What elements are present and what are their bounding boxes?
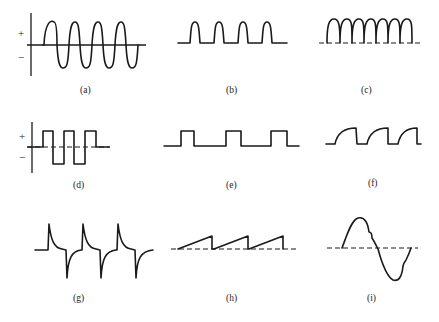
panel-label-i: (i): [367, 293, 376, 304]
panel-g: (g): [35, 224, 153, 304]
panel-label-a: (a): [80, 85, 91, 96]
distorted-sine-wave: [342, 218, 411, 281]
panel-f: (f): [326, 128, 421, 189]
minus-sign: −: [19, 151, 25, 163]
panel-d: + − (d): [19, 122, 110, 191]
panel-label-c: (c): [361, 85, 372, 96]
panel-h: (h): [171, 236, 297, 304]
plus-sign: +: [19, 130, 25, 142]
panel-a: + − (a): [18, 13, 146, 96]
rectified-arches: [327, 19, 412, 43]
panel-label-g: (g): [73, 293, 84, 304]
panel-label-b: (b): [226, 85, 237, 96]
rectangular-pulse-train: [164, 131, 299, 146]
panel-e: (e): [164, 131, 299, 191]
panel-b: (b): [178, 22, 287, 96]
panel-label-e: (e): [226, 180, 237, 191]
rounded-pulse-wave: [178, 22, 287, 43]
sawtooth-wave: [178, 236, 283, 249]
panel-label-f: (f): [368, 178, 378, 189]
panel-label-d: (d): [73, 180, 84, 191]
panel-label-h: (h): [226, 293, 237, 304]
waveform-diagram: + − (a) (b) (c) + − (d) (e) (f) (g): [0, 0, 439, 322]
minus-sign: −: [18, 51, 24, 63]
spike-wave: [35, 224, 153, 278]
panel-c: (c): [319, 19, 420, 96]
exponential-pulse-wave: [326, 128, 421, 144]
panel-i: (i): [327, 218, 418, 304]
waveform-figure: + − (a) (b) (c) + − (d) (e) (f) (g): [0, 0, 439, 322]
plus-sign: +: [18, 27, 24, 39]
